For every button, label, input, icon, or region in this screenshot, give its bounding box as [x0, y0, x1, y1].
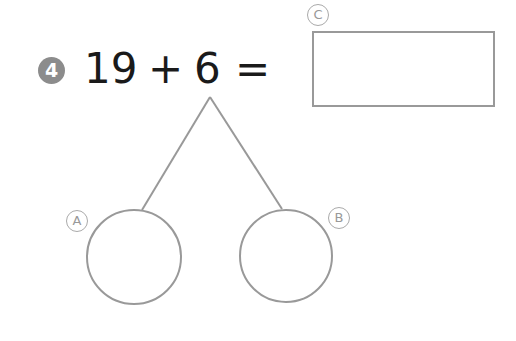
right-circle-input[interactable] [241, 211, 331, 301]
left-branch-line [142, 97, 210, 210]
label-b: B [328, 207, 350, 229]
label-a: A [66, 210, 88, 232]
left-circle-input[interactable] [88, 211, 180, 303]
right-branch-line [210, 97, 282, 209]
